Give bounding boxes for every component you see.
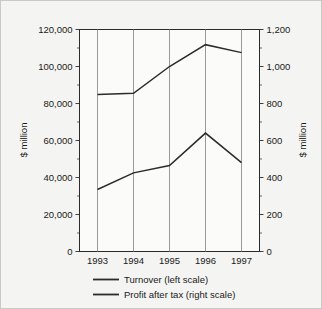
left-tick-label-80000: 80,000 [43,98,72,109]
left-tick-label-120000: 120,000 [38,24,72,35]
left-tick-label-20000: 20,000 [43,209,72,220]
left-tick-label-100000: 100,000 [38,61,72,72]
x-tick-label-1994: 1994 [123,255,144,266]
x-tick-label-1996: 1996 [195,255,216,266]
left-axis: 020,00040,00060,00080,000100,000120,000 [38,24,79,257]
dual-axis-line-chart: 020,00040,00060,00080,000100,000120,000 … [1,1,322,309]
right-tick-label-1000: 1,000 [267,61,291,72]
x-tick-label-1997: 1997 [231,255,252,266]
left-tick-label-0: 0 [67,246,72,257]
x-tick-label-1995: 1995 [159,255,180,266]
right-tick-label-200: 200 [267,209,283,220]
right-tick-label-600: 600 [267,135,283,146]
x-tick-label-1993: 1993 [87,255,108,266]
left-tick-label-60000: 60,000 [43,135,72,146]
right-tick-label-400: 400 [267,172,283,183]
right-tick-label-0: 0 [267,246,272,257]
right-axis-title: $ million [297,123,308,158]
x-axis: 19931994199519961997 [87,255,252,266]
right-tick-label-1200: 1,200 [267,24,291,35]
right-tick-label-800: 800 [267,98,283,109]
chart-legend: Turnover (left scale) Profit after tax (… [93,274,235,300]
right-axis: 02004006008001,0001,200 [260,24,291,257]
left-tick-label-40000: 40,000 [43,172,72,183]
left-axis-title: $ million [18,123,29,158]
legend-label-profit: Profit after tax (right scale) [124,289,235,300]
chart-figure: 020,00040,00060,00080,000100,000120,000 … [0,0,322,309]
legend-label-turnover: Turnover (left scale) [124,274,208,285]
